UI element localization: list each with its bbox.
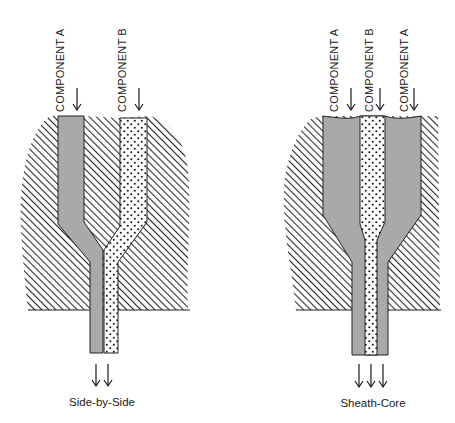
inlet-label-component-a-left: COMPONENT A	[328, 28, 340, 112]
outlet-arrow-icon	[92, 364, 100, 386]
sheath-core-panel: COMPONENT A COMPONENT B COMPONENT A	[284, 28, 441, 409]
outlet-arrow-icon	[104, 364, 112, 386]
side-by-side-panel: COMPONENT A COMPONENT B Side-by-Side	[21, 28, 190, 408]
inlet-arrow-icon	[135, 88, 143, 110]
outlet-arrow-icon	[379, 364, 387, 387]
inlet-label-component-b: COMPONENT B	[363, 28, 375, 112]
inlet-arrow-icon	[73, 88, 81, 110]
outlet-arrow-icon	[355, 364, 363, 387]
inlet-label-component-a-right: COMPONENT A	[398, 28, 410, 112]
inlet-arrow-icon	[347, 88, 355, 110]
inlet-arrow-icon	[410, 88, 418, 110]
caption-side-by-side: Side-by-Side	[69, 396, 135, 408]
inlet-label-component-b: COMPONENT B	[116, 28, 128, 112]
outlet-arrow-icon	[367, 364, 375, 387]
caption-sheath-core: Sheath-Core	[340, 397, 405, 409]
inlet-arrow-icon	[376, 88, 384, 110]
inlet-label-component-a: COMPONENT A	[54, 28, 66, 112]
bicomponent-spinneret-diagram: COMPONENT A COMPONENT B Side-by-Side	[0, 0, 455, 423]
